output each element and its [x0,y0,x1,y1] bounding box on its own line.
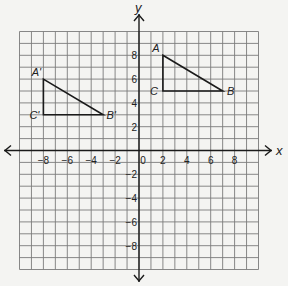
vertex-label: C [150,85,158,97]
vertex-label: B' [106,109,116,121]
x-tick-label: −8 [38,155,50,166]
x-tick-label: −4 [85,155,97,166]
x-tick-label: −2 [109,155,121,166]
x-tick-label: 4 [184,155,190,166]
x-tick-label: 2 [160,155,166,166]
x-axis-label: x [275,143,283,158]
vertex-label: B [227,85,234,97]
y-tick-label: 2 [131,122,137,133]
y-tick-label: 6 [131,74,137,85]
y-axis-label: y [134,0,143,15]
triangle-abc-prime [43,79,103,115]
y-tick-label: −2 [126,169,138,180]
triangle-abc [163,55,223,91]
y-tick-label: −8 [126,241,138,252]
y-tick-label: −4 [126,193,138,204]
coordinate-grid-svg: xy−8−6−4−2024688642−2−4−6−8ABCA'B'C' [0,0,288,286]
x-tick-label: −6 [62,155,74,166]
coordinate-plane: xy−8−6−4−2024688642−2−4−6−8ABCA'B'C' [0,0,288,286]
x-tick-label: 0 [140,155,146,166]
y-tick-label: 8 [131,50,137,61]
y-tick-label: 4 [131,98,137,109]
x-tick-label: 6 [208,155,214,166]
vertex-label: C' [29,109,40,121]
vertex-label: A [151,42,159,54]
x-tick-label: 8 [232,155,238,166]
vertex-label: A' [31,66,42,78]
y-tick-label: −6 [126,217,138,228]
